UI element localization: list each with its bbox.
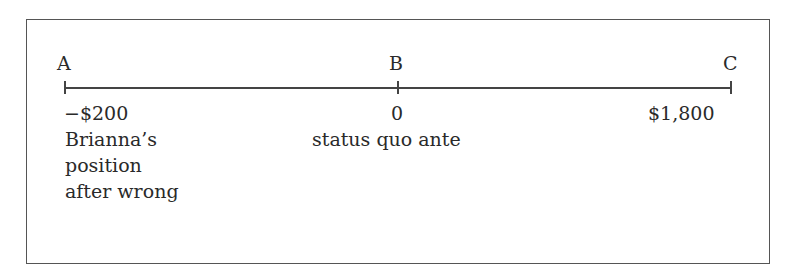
desc-a-line2: position (65, 152, 179, 178)
desc-b-line1: status quo ante (312, 126, 461, 152)
desc-a: Brianna’s position after wrong (65, 126, 179, 204)
label-b: B (389, 50, 403, 76)
desc-b: status quo ante (312, 126, 461, 152)
tick-b (397, 81, 399, 94)
tick-a (64, 81, 66, 94)
value-c: $1,800 (648, 100, 714, 126)
desc-a-line3: after wrong (65, 178, 179, 204)
value-b: 0 (391, 100, 403, 126)
label-c: C (723, 50, 738, 76)
tick-c (730, 81, 732, 94)
desc-a-line1: Brianna’s (65, 126, 179, 152)
value-a: −$200 (64, 100, 128, 126)
label-a: A (57, 50, 71, 76)
